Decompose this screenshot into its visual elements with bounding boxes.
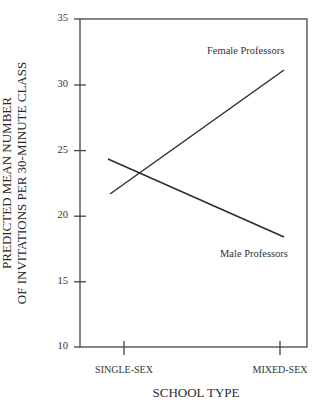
y-tick-label-10: 10 [48,340,68,351]
x-tick-label-single-sex: SINGLE-SEX [95,364,153,375]
y-tick-label-35: 35 [48,12,68,23]
x-tick-label-mixed-sex: MIXED-SEX [253,364,308,375]
y-axis-label-line1: PREDICTED MEAN NUMBER [0,62,14,304]
y-tick-label-30: 30 [48,78,68,89]
x-axis-ticks [124,341,280,355]
y-axis-label-line2: OF INVITATIONS PER 30-MINUTE CLASS [14,62,29,304]
y-tick-label-15: 15 [48,275,68,286]
series-line-female [110,70,284,194]
y-tick-label-25: 25 [48,144,68,155]
series-label-female: Female Professors [207,45,284,56]
series-line-male [108,159,284,237]
plot-frame [80,19,307,347]
x-axis-label: SCHOOL TYPE [152,385,239,401]
y-tick-label-20: 20 [48,209,68,220]
series-label-male: Male Professors [220,248,288,259]
